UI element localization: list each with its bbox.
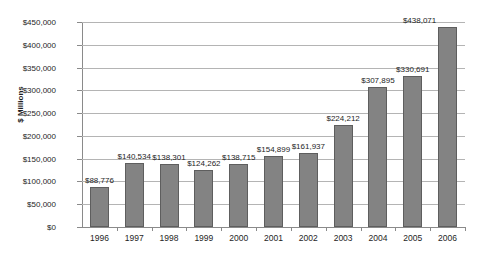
bar-chart: $ Millions $0$50,000$100,000$150,000$200… xyxy=(0,0,485,260)
plot-area: $0$50,000$100,000$150,000$200,000$250,00… xyxy=(82,22,465,227)
x-tick-mark xyxy=(186,227,187,231)
y-tick-mark xyxy=(77,159,82,160)
x-tick-mark xyxy=(117,227,118,231)
y-tick-mark xyxy=(77,113,82,114)
y-tick-label: $300,000 xyxy=(0,86,56,95)
x-tick-mark xyxy=(221,227,222,231)
bar-value-label: $330,691 xyxy=(390,65,436,74)
x-tick-mark xyxy=(430,227,431,231)
bar xyxy=(403,76,422,227)
bar xyxy=(194,170,213,227)
bar xyxy=(264,156,283,227)
y-tick-label: $350,000 xyxy=(0,63,56,72)
y-tick-mark xyxy=(77,136,82,137)
y-tick-label: $200,000 xyxy=(0,131,56,140)
y-tick-label: $250,000 xyxy=(0,109,56,118)
y-tick-label: $0 xyxy=(0,223,56,232)
bar-value-label: $307,895 xyxy=(355,76,401,85)
x-tick-mark xyxy=(326,227,327,231)
bar-value-label: $88,776 xyxy=(76,176,122,185)
bar xyxy=(299,153,318,227)
y-tick-mark xyxy=(77,90,82,91)
bar-value-label: $224,212 xyxy=(320,114,366,123)
y-tick-mark xyxy=(77,68,82,69)
y-tick-mark xyxy=(77,204,82,205)
x-tick-mark xyxy=(361,227,362,231)
bar-value-label: $438,071 xyxy=(397,16,443,25)
gridline xyxy=(82,227,465,228)
y-axis-line xyxy=(82,22,83,228)
y-tick-mark xyxy=(77,45,82,46)
bar xyxy=(368,87,387,227)
x-tick-mark xyxy=(152,227,153,231)
x-tick-label: 2006 xyxy=(428,233,468,243)
y-tick-label: $150,000 xyxy=(0,154,56,163)
bar xyxy=(229,164,248,227)
y-tick-mark xyxy=(77,227,82,228)
y-tick-label: $100,000 xyxy=(0,177,56,186)
bar xyxy=(90,187,109,227)
bar xyxy=(438,27,457,227)
y-tick-label: $450,000 xyxy=(0,18,56,27)
y-tick-mark xyxy=(77,22,82,23)
x-tick-mark xyxy=(256,227,257,231)
x-tick-mark xyxy=(291,227,292,231)
bar xyxy=(125,163,144,227)
x-tick-mark xyxy=(395,227,396,231)
x-tick-mark xyxy=(465,227,466,231)
bar-value-label: $161,937 xyxy=(285,142,331,151)
y-tick-label: $50,000 xyxy=(0,200,56,209)
gridline xyxy=(82,45,465,46)
bar xyxy=(334,125,353,227)
bar xyxy=(160,164,179,227)
y-tick-label: $400,000 xyxy=(0,40,56,49)
